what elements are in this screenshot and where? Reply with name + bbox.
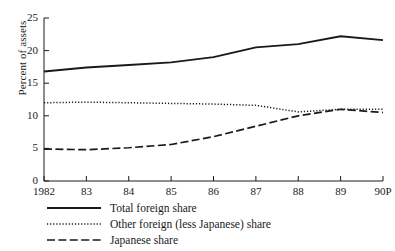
legend-item-japanese-share: Japanese share (47, 232, 377, 248)
y-axis-ticks (44, 18, 49, 181)
series-line-total-foreign-share (44, 36, 383, 71)
x-axis-ticks (44, 176, 383, 181)
data-series-group (44, 36, 383, 149)
legend-item-other-foreign-share: Other foreign (less Japanese) share (47, 216, 377, 232)
legend-key-solid-line-icon (47, 201, 101, 215)
legend-key-dotted-line-icon (47, 217, 101, 231)
series-line-japanese-share (44, 109, 383, 149)
legend-label-other-foreign-share: Other foreign (less Japanese) share (110, 218, 271, 231)
chart-figure: Percent of assets 0510152025 19828384858… (0, 0, 395, 251)
axis-spines (44, 18, 383, 181)
chart-legend: Total foreign share Other foreign (less … (47, 200, 377, 248)
legend-key-dashed-line-icon (47, 233, 101, 247)
legend-item-total-foreign-share: Total foreign share (47, 200, 377, 216)
legend-label-japanese-share: Japanese share (110, 234, 178, 247)
legend-label-total-foreign-share: Total foreign share (110, 202, 197, 215)
